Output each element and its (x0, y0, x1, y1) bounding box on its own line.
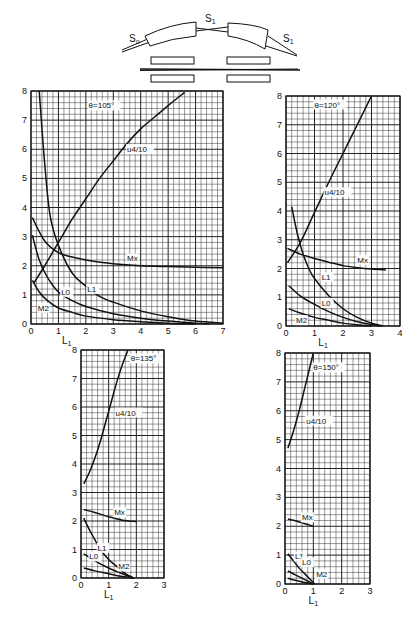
x-tick-label: 0 (282, 586, 287, 596)
tick-labels: 0123012345678 (72, 345, 167, 590)
curve-label: θ=120° (315, 101, 341, 110)
curve-label: Mx (114, 508, 125, 517)
y-tick-label: 6 (22, 144, 27, 154)
curve-label: θ=150° (313, 363, 339, 372)
y-tick-label: 2 (276, 521, 281, 531)
x-tick-label: 6 (193, 326, 198, 336)
y-tick-label: 5 (72, 431, 77, 441)
x-tick-label: 0 (28, 326, 33, 336)
y-tick-label: 6 (72, 402, 77, 412)
y-tick-label: 1 (277, 292, 282, 302)
tick-labels: 01234567012345678 (22, 86, 226, 336)
curve-label: L0 (89, 552, 98, 561)
y-tick-label: 4 (277, 206, 282, 216)
curve-label: θ=135° (131, 354, 157, 363)
x-tick-label: 2 (83, 326, 88, 336)
y-tick-label: 5 (22, 173, 27, 183)
y-tick-label: 6 (277, 149, 282, 159)
y-tick-label: 2 (22, 261, 27, 271)
curve-label: Mx (302, 513, 313, 522)
y-tick-label: 1 (276, 550, 281, 560)
chart-theta-135: 0123012345678L1θ=135°u4/10MxL1L0M2 (72, 345, 167, 601)
y-tick-label: 0 (22, 319, 27, 329)
y-tick-label: 4 (72, 459, 77, 469)
x-tick-label: 2 (134, 580, 139, 590)
x-tick-label: 7 (220, 326, 225, 336)
x-tick-label: 0 (78, 580, 83, 590)
chart-theta-150: 0123012345678L1θ=150°u4/10MxL1L0M2 (276, 348, 373, 607)
y-tick-label: 1 (22, 290, 27, 300)
curve-label: Mx (127, 254, 138, 263)
curve-label: L0 (322, 299, 331, 308)
y-tick-label: 5 (277, 177, 282, 187)
x-tick-label: 5 (166, 326, 171, 336)
curve-u410 (287, 96, 371, 263)
x-tick-label: 4 (138, 326, 143, 336)
y-tick-label: 2 (277, 264, 282, 274)
curve-mx (84, 510, 137, 522)
curve-label: M2 (118, 562, 130, 571)
grid (286, 96, 400, 326)
curve-label: u4/10 (127, 145, 148, 154)
y-tick-label: 7 (276, 377, 281, 387)
curve-label: u4/10 (306, 417, 327, 426)
grid (31, 91, 223, 324)
y-tick-label: 7 (22, 115, 27, 125)
label-s1-right: S1 (283, 33, 294, 45)
curve-label: θ=105° (89, 101, 115, 110)
curve-label: L1 (322, 273, 331, 282)
y-tick-label: 3 (277, 235, 282, 245)
beamline-schematic: So S1 S1 01234567012345678L1θ=105°u4/10M… (0, 0, 419, 618)
y-tick-label: 8 (277, 91, 282, 101)
label-s1-mid: S1 (205, 13, 216, 25)
y-tick-label: 2 (72, 516, 77, 526)
y-tick-label: 8 (276, 348, 281, 358)
chart-theta-105: 01234567012345678L1θ=105°u4/10MxL1L0M2 (22, 86, 226, 347)
tick-labels: 01234012345678 (277, 91, 403, 338)
annotations: θ=135°u4/10MxL1L0M2 (88, 353, 163, 571)
curve-label: L0 (61, 288, 70, 297)
y-tick-label: 3 (22, 232, 27, 242)
x-axis-label: L1 (104, 589, 114, 601)
y-tick-label: 8 (22, 86, 27, 96)
x-tick-label: 0 (283, 328, 288, 338)
curve-label: L1 (87, 285, 96, 294)
y-tick-label: 4 (22, 203, 27, 213)
curve-label: u4/10 (116, 409, 137, 418)
x-tick-label: 2 (339, 586, 344, 596)
y-tick-label: 5 (276, 435, 281, 445)
magnet-schematic (122, 22, 300, 82)
x-tick-label: 2 (340, 328, 345, 338)
chart-theta-120: 01234012345678L1θ=120°u4/10MxL1L0M2 (277, 91, 403, 349)
y-tick-label: 0 (72, 573, 77, 583)
y-tick-label: 3 (276, 492, 281, 502)
label-s0: So (129, 33, 140, 45)
curve-label: Mx (357, 256, 368, 265)
x-tick-label: 3 (369, 328, 374, 338)
curve-label: u4/10 (324, 188, 345, 197)
curve-label: L0 (302, 558, 311, 567)
x-tick-label: 3 (111, 326, 116, 336)
x-tick-label: 1 (56, 326, 61, 336)
curve-label: M2 (296, 316, 308, 325)
curve-label: M2 (38, 304, 50, 313)
y-tick-label: 7 (72, 374, 77, 384)
y-tick-label: 1 (72, 545, 77, 555)
y-tick-label: 0 (277, 321, 282, 331)
curve-label: M2 (316, 570, 328, 579)
grid (285, 353, 370, 584)
y-tick-label: 8 (72, 345, 77, 355)
x-tick-label: 3 (367, 586, 372, 596)
x-axis-label: L1 (62, 335, 72, 347)
x-axis-label: L1 (309, 595, 319, 607)
y-tick-label: 6 (276, 406, 281, 416)
figure: So S1 S1 01234567012345678L1θ=105°u4/10M… (0, 0, 419, 618)
annotations: θ=150°u4/10MxL1L0M2 (294, 362, 345, 578)
x-axis-label: L1 (318, 337, 328, 349)
curve-u410 (34, 92, 185, 283)
y-tick-label: 0 (276, 579, 281, 589)
y-tick-label: 4 (276, 464, 281, 474)
y-tick-label: 3 (72, 488, 77, 498)
x-tick-label: 3 (161, 580, 166, 590)
x-tick-label: 1 (312, 328, 317, 338)
